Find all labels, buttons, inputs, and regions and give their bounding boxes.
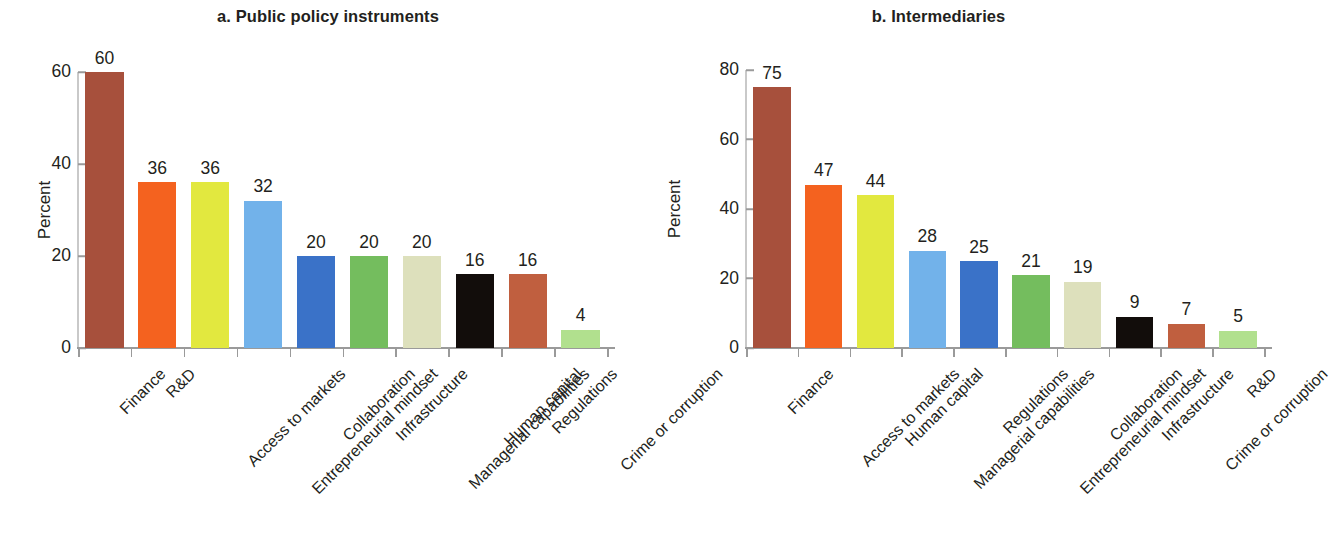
- panel-b-bars: 75474428252119975: [746, 70, 1264, 348]
- bar-value-label: 25: [953, 239, 1005, 257]
- bar: [1064, 282, 1101, 348]
- bar: [297, 256, 335, 348]
- x-tick-label-text: R&D: [1244, 365, 1281, 402]
- x-tick-label-text: Finance: [784, 365, 837, 418]
- y-tick: 0: [729, 339, 746, 357]
- bar-group: 25: [953, 70, 1005, 348]
- panel-a-title: a. Public policy instruments: [0, 7, 628, 26]
- chart-panel-b: b. Intermediaries Percent 020406080 7547…: [628, 0, 1255, 540]
- bar: [244, 201, 282, 348]
- bar-value-label: 16: [448, 252, 501, 270]
- bar-group: 9: [1109, 70, 1161, 348]
- bar: [753, 87, 790, 348]
- bar-group: 20: [395, 72, 448, 348]
- x-tick-label: Entrepreneurial mindset: [1081, 358, 1214, 491]
- panel-a-x-tick-labels: FinanceR&DAccess to marketsEntrepreneuri…: [78, 348, 607, 533]
- bar-value-label: 7: [1160, 301, 1212, 319]
- y-tick: 0: [61, 339, 78, 357]
- bar-group: 36: [184, 72, 237, 348]
- bar: [350, 256, 388, 348]
- bar-value-label: 21: [1005, 253, 1057, 271]
- bar: [191, 182, 229, 348]
- x-tick-label: R&D: [1248, 358, 1285, 395]
- bar: [85, 72, 123, 348]
- bar-value-label: 4: [554, 307, 607, 325]
- panel-b-y-axis-label: Percent: [665, 180, 685, 239]
- x-tick-label-text: Crime or corruption: [1222, 365, 1332, 475]
- panel-a-plot-area: Percent 0204060 6036363220202016164 Fina…: [78, 72, 607, 348]
- panel-b-plot-area: Percent 020406080 75474428252119975 Fina…: [746, 70, 1264, 348]
- bar-value-label: 5: [1212, 308, 1264, 326]
- y-tick: 40: [52, 155, 78, 173]
- bar: [909, 251, 946, 348]
- y-tick-label: 80: [720, 61, 746, 79]
- bar: [561, 330, 599, 348]
- bar-value-label: 16: [501, 252, 554, 270]
- panel-b-x-tick-labels: FinanceAccess to marketsHuman capitalMan…: [746, 348, 1264, 533]
- bar: [1168, 324, 1205, 348]
- bar: [1219, 331, 1256, 348]
- y-tick: 60: [52, 63, 78, 81]
- bar-group: 4: [554, 72, 607, 348]
- bar: [509, 274, 547, 348]
- y-tick-label: 60: [720, 131, 746, 149]
- bar-value-label: 19: [1057, 259, 1109, 277]
- x-tick-mark: [607, 348, 609, 357]
- x-tick-label-text: Access to markets: [858, 365, 963, 470]
- bar-group: 60: [78, 72, 131, 348]
- x-tick-label: Finance: [789, 358, 842, 411]
- y-tick-label: 20: [52, 247, 78, 265]
- panel-a-y-axis-label: Percent: [35, 181, 55, 240]
- panel-b-title: b. Intermediaries: [628, 7, 1255, 26]
- bar-group: 47: [798, 70, 850, 348]
- y-tick-label: 40: [720, 200, 746, 218]
- x-tick-label: Managerial capabilities: [975, 358, 1103, 486]
- bar-group: 36: [131, 72, 184, 348]
- x-tick-mark: [1264, 348, 1266, 357]
- bar-group: 5: [1212, 70, 1264, 348]
- bar-value-label: 32: [237, 178, 290, 196]
- bar-value-label: 36: [184, 160, 237, 178]
- y-tick: 20: [52, 247, 78, 265]
- y-tick: 80: [720, 61, 746, 79]
- y-tick-label: 0: [61, 339, 78, 357]
- bar-value-label: 36: [131, 160, 184, 178]
- bar: [456, 274, 494, 348]
- x-tick-label-text: Access to markets: [244, 365, 349, 470]
- chart-panel-a: a. Public policy instruments Percent 020…: [0, 0, 628, 540]
- bar-group: 19: [1057, 70, 1109, 348]
- bar-group: 20: [290, 72, 343, 348]
- y-tick: 60: [720, 131, 746, 149]
- x-tick-label: R&D: [167, 358, 204, 395]
- bar-group: 28: [901, 70, 953, 348]
- bar-group: 16: [448, 72, 501, 348]
- x-tick-label: Access to markets: [249, 358, 354, 463]
- bar: [1116, 317, 1153, 348]
- x-tick-label-text: Entrepreneurial mindset: [1076, 365, 1209, 498]
- x-tick-label-text: Finance: [117, 365, 170, 418]
- bar-group: 7: [1160, 70, 1212, 348]
- bar: [138, 182, 176, 348]
- bar-value-label: 75: [746, 65, 798, 83]
- y-tick-label: 40: [52, 155, 78, 173]
- bar-group: 16: [501, 72, 554, 348]
- bar: [403, 256, 441, 348]
- bar: [960, 261, 997, 348]
- panel-a-bars: 6036363220202016164: [78, 72, 607, 348]
- x-tick-label-text: Managerial capabilities: [971, 365, 1099, 493]
- bar-value-label: 44: [850, 173, 902, 191]
- bar-value-label: 9: [1109, 294, 1161, 312]
- bar-value-label: 60: [78, 50, 131, 68]
- bar: [805, 185, 842, 348]
- bar-group: 75: [746, 70, 798, 348]
- bar-group: 44: [850, 70, 902, 348]
- bar-group: 32: [237, 72, 290, 348]
- y-tick-label: 20: [720, 270, 746, 288]
- bar-group: 20: [343, 72, 396, 348]
- y-tick-label: 60: [52, 63, 78, 81]
- bar-value-label: 47: [798, 162, 850, 180]
- bar-value-label: 20: [290, 234, 343, 252]
- bar-value-label: 20: [395, 234, 448, 252]
- y-tick: 40: [720, 200, 746, 218]
- bar-value-label: 20: [343, 234, 396, 252]
